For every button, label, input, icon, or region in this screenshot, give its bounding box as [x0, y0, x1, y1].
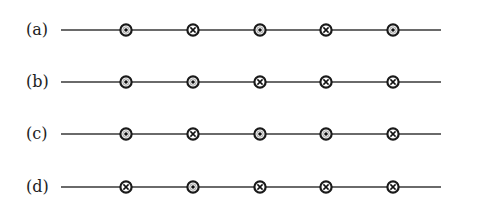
row-label: (d) [26, 177, 58, 197]
current-out-of-page-icon [186, 75, 200, 89]
current-into-page-icon [319, 23, 333, 37]
current-into-page-icon [186, 127, 200, 141]
wire-line [61, 133, 441, 135]
row-label: (c) [26, 124, 58, 144]
current-into-page-icon [386, 127, 400, 141]
current-out-of-page-icon [253, 127, 267, 141]
current-out-of-page-icon [253, 23, 267, 37]
wire-row: (b) [0, 72, 483, 92]
current-out-of-page-icon [386, 23, 400, 37]
current-into-page-icon [319, 180, 333, 194]
current-into-page-icon [386, 75, 400, 89]
wire-row: (d) [0, 177, 483, 197]
wire-line [61, 81, 441, 83]
wire-line [61, 29, 441, 31]
wire-row: (a) [0, 20, 483, 40]
current-out-of-page-icon [119, 23, 133, 37]
wire-row: (c) [0, 124, 483, 144]
wire-line [61, 186, 441, 188]
current-into-page-icon [319, 75, 333, 89]
current-out-of-page-icon [186, 180, 200, 194]
current-into-page-icon [253, 75, 267, 89]
row-label: (a) [26, 20, 58, 40]
row-label: (b) [26, 72, 58, 92]
current-into-page-icon [119, 180, 133, 194]
current-into-page-icon [253, 180, 267, 194]
current-out-of-page-icon [319, 127, 333, 141]
current-into-page-icon [186, 23, 200, 37]
current-into-page-icon [386, 180, 400, 194]
current-out-of-page-icon [119, 127, 133, 141]
current-out-of-page-icon [119, 75, 133, 89]
